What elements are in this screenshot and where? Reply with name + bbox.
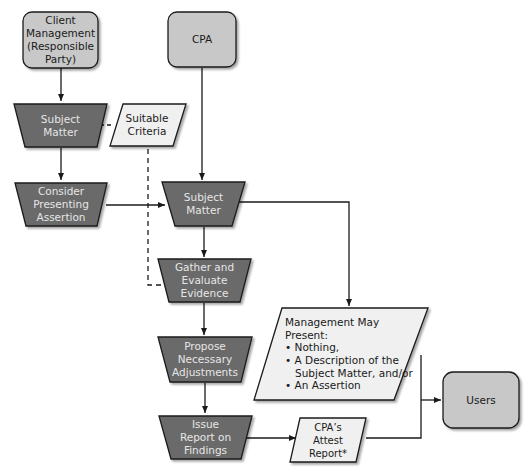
issue-report-label: Issue Report on Findings [159, 416, 252, 459]
suitable-criteria-label: Suitable Criteria [114, 104, 180, 146]
label-line: Gather and [175, 261, 234, 274]
label-line: Management [26, 27, 95, 40]
label-line: CPA [192, 33, 212, 46]
label-line: Presenting [33, 198, 89, 211]
subject-matter-center-label: Subject Matter [162, 182, 245, 226]
client-management-label: Client Management (Responsible Party) [23, 12, 98, 68]
cpa-attest-report-label: CPA’s Attest Report* [293, 418, 363, 462]
consider-presenting-label: Consider Presenting Assertion [15, 183, 107, 226]
label-line: Management May [285, 316, 379, 329]
propose-adjustments-label: Propose Necessary Adjustments [158, 337, 252, 382]
bullet-description-cont: Subject Matter, and/or [285, 367, 413, 380]
label-line: CPA’s [314, 421, 342, 434]
bullet-description: • A Description of the [285, 354, 399, 367]
cpa-label: CPA [168, 12, 236, 67]
label-line: Report on [180, 431, 231, 444]
subject-matter-left-label: Subject Matter [14, 104, 107, 147]
label-line: Findings [184, 444, 227, 457]
gather-evaluate-label: Gather and Evaluate Evidence [158, 259, 251, 302]
label-line: Present: [285, 329, 328, 342]
label-line: Consider [38, 185, 84, 198]
label-line: Evaluate [182, 274, 228, 287]
label-line: Propose [184, 340, 226, 353]
users-label: Users [443, 372, 519, 428]
label-line: Matter [43, 126, 78, 139]
label-line: Attest [313, 434, 343, 447]
label-line: Subject [184, 191, 223, 204]
label-line: Evidence [181, 287, 229, 300]
label-line: Issue [192, 418, 219, 431]
bullet-nothing: • Nothing, [285, 341, 339, 354]
label-line: Users [466, 394, 495, 407]
label-line: (Responsible [27, 40, 94, 53]
label-line: Matter [186, 204, 221, 217]
label-line: Necessary [178, 353, 232, 366]
label-line: Subject [41, 113, 80, 126]
bullet-assertion: • An Assertion [285, 379, 361, 392]
arrow-subject-to-management-present [239, 202, 349, 306]
label-line: Party) [45, 53, 76, 66]
label-line: Criteria [128, 125, 167, 138]
management-may-present-label: Management May Present: • Nothing, • A D… [285, 316, 425, 392]
label-line: Report* [309, 447, 347, 460]
label-line: Assertion [36, 211, 85, 224]
label-line: Suitable [126, 112, 169, 125]
label-line: Adjustments [172, 366, 238, 379]
label-line: Client [45, 14, 75, 27]
attest-engagement-flowchart: Client Management (Responsible Party) CP… [0, 0, 525, 471]
